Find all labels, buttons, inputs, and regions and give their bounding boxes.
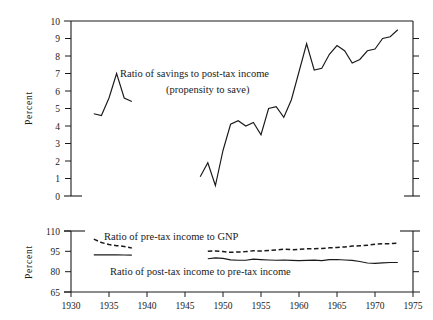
bottom-xtick-1975: 1975	[404, 301, 423, 311]
bottom-xtick-1935: 1935	[100, 301, 119, 311]
propensity-to-save-seg-1	[200, 30, 398, 186]
top-ytick-9: 9	[55, 34, 60, 44]
bottom-ytick-65: 65	[51, 288, 61, 298]
bottom-right-ticks	[413, 251, 419, 271]
top-ytick-7: 7	[55, 69, 60, 79]
top-ytick-2: 2	[55, 157, 60, 167]
top-series-group	[94, 30, 398, 186]
top-ytick-1: 1	[55, 174, 60, 184]
top-left-ticks	[64, 21, 71, 179]
bottom-xtick-1960: 1960	[290, 301, 309, 311]
bottom-ytick-95: 95	[51, 247, 61, 257]
bottom-xtick-1940: 1940	[138, 301, 157, 311]
top-panel: 10 9 8 7 6 5 4 3 2 1 0 Percent Ratio of …	[24, 17, 420, 202]
top-y-axis-title: Percent	[24, 91, 34, 125]
bottom-xtick-1945: 1945	[176, 301, 195, 311]
pretax-to-gnp-seg-1	[208, 243, 398, 252]
bottom-x-ticks	[71, 292, 413, 297]
bottom-ytick-110: 110	[46, 227, 60, 237]
bottom-ytick-80: 80	[51, 267, 61, 277]
top-ytick-3: 3	[55, 139, 60, 149]
bottom-xtick-1965: 1965	[328, 301, 347, 311]
top-right-ticks	[413, 39, 419, 179]
top-annotation-line-2: (propensity to save)	[166, 84, 250, 96]
posttax-to-pretax-seg-1	[208, 258, 398, 264]
top-ytick-4: 4	[55, 122, 60, 132]
bottom-y-axis-title: Percent	[24, 245, 34, 279]
bottom-xtick-1955: 1955	[252, 301, 271, 311]
bottom-xtick-1930: 1930	[62, 301, 81, 311]
bottom-series-group	[94, 239, 398, 263]
economics-figure: 10 9 8 7 6 5 4 3 2 1 0 Percent Ratio of …	[0, 0, 433, 320]
bottom-xtick-1950: 1950	[214, 301, 233, 311]
bottom-annotation-pretax-gnp: Ratio of pre-tax income to GNP	[104, 231, 239, 242]
top-ytick-8: 8	[55, 52, 60, 62]
propensity-to-save-seg-0	[94, 74, 132, 116]
top-ytick-10: 10	[51, 17, 61, 27]
top-annotation-line-1: Ratio of savings to post-tax income	[120, 68, 269, 79]
bottom-xtick-1970: 1970	[366, 301, 385, 311]
bottom-left-ticks	[64, 231, 71, 292]
top-ytick-6: 6	[55, 87, 60, 97]
bottom-panel: 110 95 80 65 Percent 1930 1935 1940 1945…	[24, 227, 423, 312]
top-ytick-0: 0	[55, 192, 60, 202]
top-ytick-5: 5	[55, 104, 60, 114]
bottom-annotation-posttax-pretax: Ratio of post-tax income to pre-tax inco…	[110, 266, 291, 277]
